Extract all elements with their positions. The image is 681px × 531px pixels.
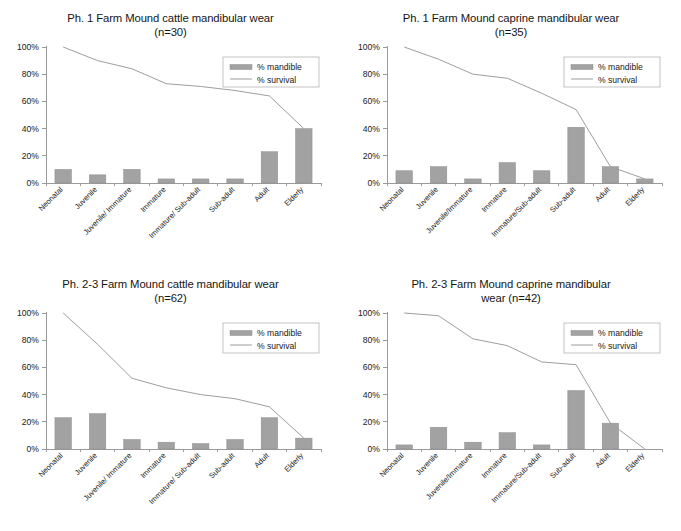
- figure-grid: Ph. 1 Farm Mound cattle mandibular wear …: [0, 0, 681, 531]
- x-tick-label: Juvenile: [414, 451, 440, 477]
- bar: [296, 438, 313, 449]
- legend-label-survival: % survival: [257, 75, 296, 85]
- y-tick-label: 80%: [363, 69, 381, 79]
- chart-panel-ph23-caprine: Ph. 2-3 Farm Mound caprine mandibular we…: [341, 266, 681, 531]
- y-tick-label: 40%: [22, 390, 40, 400]
- bar: [465, 179, 482, 183]
- y-tick-label: 0%: [368, 178, 381, 188]
- legend-swatch-mandible: [230, 331, 252, 336]
- y-tick-label: 100%: [358, 308, 380, 318]
- x-tick-label: Adult: [252, 184, 271, 203]
- x-axis-labels: NeonatalJuvenileJuvenile/ ImmatureImmatu…: [37, 450, 306, 506]
- bar: [568, 127, 585, 183]
- y-tick-label: 80%: [363, 335, 381, 345]
- bar: [192, 179, 209, 183]
- y-tick-label: 100%: [17, 308, 39, 318]
- legend-swatch-mandible: [571, 65, 593, 70]
- bar: [124, 439, 141, 449]
- plot-area: 0%20%40%60%80%100%NeonatalJuvenileJuveni…: [341, 39, 681, 261]
- bar: [227, 439, 244, 449]
- x-tick-label: Sub-adult: [548, 450, 578, 480]
- legend-label-survival: % survival: [598, 75, 637, 85]
- y-tick-label: 100%: [17, 42, 39, 52]
- x-tick-label: Juvenile: [73, 185, 99, 211]
- bar: [533, 171, 550, 183]
- bar: [192, 444, 209, 449]
- x-tick-label: Immature: [139, 185, 168, 214]
- x-tick-label: Sub-adult: [548, 184, 578, 214]
- x-tick-label: Neonatal: [37, 451, 65, 479]
- x-tick-label: Neonatal: [37, 185, 65, 213]
- y-tick-label: 100%: [358, 42, 380, 52]
- x-tick-label: Juvenile: [73, 451, 99, 477]
- x-tick-label: Neonatal: [378, 451, 406, 479]
- legend-swatch-mandible: [571, 331, 593, 336]
- chart-legend: % mandible% survival: [564, 323, 660, 353]
- y-tick-label: 20%: [363, 151, 381, 161]
- bar: [396, 171, 413, 183]
- bar: [430, 427, 447, 449]
- y-tick-label: 0%: [368, 444, 381, 454]
- y-tick-label: 20%: [22, 151, 40, 161]
- legend-label-mandible: % mandible: [598, 328, 643, 338]
- chart-legend: % mandible% survival: [223, 57, 319, 87]
- y-tick-label: 40%: [22, 124, 40, 134]
- legend-label-survival: % survival: [598, 341, 637, 351]
- x-tick-label: Elderly: [282, 185, 305, 208]
- y-tick-label: 80%: [22, 69, 40, 79]
- bar: [55, 169, 72, 183]
- bar: [158, 179, 175, 183]
- bar: [499, 433, 516, 449]
- x-tick-label: Sub-adult: [207, 184, 237, 214]
- bar: [430, 167, 447, 183]
- x-tick-label: Elderly: [282, 451, 305, 474]
- chart-legend: % mandible% survival: [223, 323, 319, 353]
- chart-panel-ph1-caprine: Ph. 1 Farm Mound caprine mandibular wear…: [341, 0, 681, 266]
- x-tick-label: Adult: [593, 184, 612, 203]
- chart-legend: % mandible% survival: [564, 57, 660, 87]
- x-tick-label: Immature: [480, 185, 509, 214]
- y-tick-label: 40%: [363, 124, 381, 134]
- legend-label-mandible: % mandible: [598, 62, 643, 72]
- y-tick-label: 20%: [363, 417, 381, 427]
- legend-label-mandible: % mandible: [257, 328, 302, 338]
- bar: [124, 169, 141, 183]
- x-tick-label: Immature: [139, 451, 168, 480]
- bar: [261, 152, 278, 183]
- y-tick-label: 60%: [363, 362, 381, 372]
- x-axis-labels: NeonatalJuvenileJuvenile/ImmatureImmatur…: [378, 184, 647, 238]
- x-tick-label: Sub-adult: [207, 450, 237, 480]
- chart-title: Ph. 1 Farm Mound cattle mandibular wear …: [0, 0, 341, 39]
- bar: [158, 442, 175, 449]
- chart-title: Ph. 2-3 Farm Mound caprine mandibular we…: [341, 266, 681, 305]
- x-tick-label: Elderly: [623, 185, 646, 208]
- y-tick-label: 0%: [27, 444, 40, 454]
- bar: [465, 442, 482, 449]
- bar: [89, 175, 106, 183]
- plot-area: 0%20%40%60%80%100%NeonatalJuvenileJuveni…: [0, 39, 341, 261]
- y-tick-label: 60%: [363, 96, 381, 106]
- x-tick-label: Juvenile: [414, 185, 440, 211]
- bar-series: [55, 129, 312, 183]
- chart-title: Ph. 2-3 Farm Mound cattle mandibular wea…: [0, 266, 341, 305]
- bar: [499, 163, 516, 183]
- x-tick-label: Neonatal: [378, 185, 406, 213]
- x-tick-label: Immature: [480, 451, 509, 480]
- bar: [261, 418, 278, 449]
- bar: [55, 418, 72, 449]
- chart-title: Ph. 1 Farm Mound caprine mandibular wear…: [341, 0, 681, 39]
- y-tick-label: 20%: [22, 417, 40, 427]
- y-tick-label: 80%: [22, 335, 40, 345]
- bar-series: [396, 391, 619, 449]
- x-tick-label: Adult: [252, 450, 271, 469]
- bar: [533, 445, 550, 449]
- y-tick-label: 0%: [27, 178, 40, 188]
- bar: [568, 391, 585, 449]
- x-axis-labels: NeonatalJuvenileJuvenile/ ImmatureImmatu…: [37, 184, 306, 240]
- plot-area: 0%20%40%60%80%100%NeonatalJuvenileJuveni…: [341, 305, 681, 527]
- x-tick-label: Adult: [593, 450, 612, 469]
- chart-panel-ph23-cattle: Ph. 2-3 Farm Mound cattle mandibular wea…: [0, 266, 341, 531]
- bar: [637, 179, 654, 183]
- x-axis-labels: NeonatalJuvenileJuvenile/ImmatureImmatur…: [378, 450, 647, 504]
- bar: [89, 414, 106, 449]
